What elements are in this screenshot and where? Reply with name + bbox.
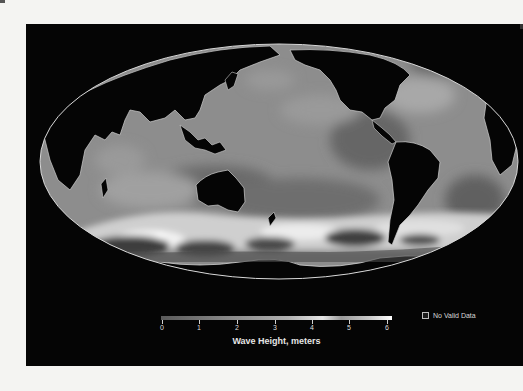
colorbar-tick-label: 6 (385, 324, 389, 331)
colorbar-title: Wave Height, meters (161, 336, 392, 346)
no-data-swatch-icon (422, 312, 429, 319)
colorbar-tick-label: 2 (235, 324, 239, 331)
colorbar-tick-label: 0 (160, 324, 164, 331)
colorbar-tick-label: 4 (310, 324, 314, 331)
colorbar-tick-label: 3 (273, 324, 277, 331)
colorbar-tick-label: 1 (197, 324, 201, 331)
no-valid-data-legend: No Valid Data (422, 312, 476, 319)
colorbar: 0 1 2 3 4 5 6 Wave Height, meters (161, 316, 393, 356)
colorbar-gradient (161, 316, 392, 320)
colorbar-tick-label: 5 (347, 324, 351, 331)
ocean-layer (40, 44, 520, 290)
no-data-label: No Valid Data (433, 312, 476, 319)
